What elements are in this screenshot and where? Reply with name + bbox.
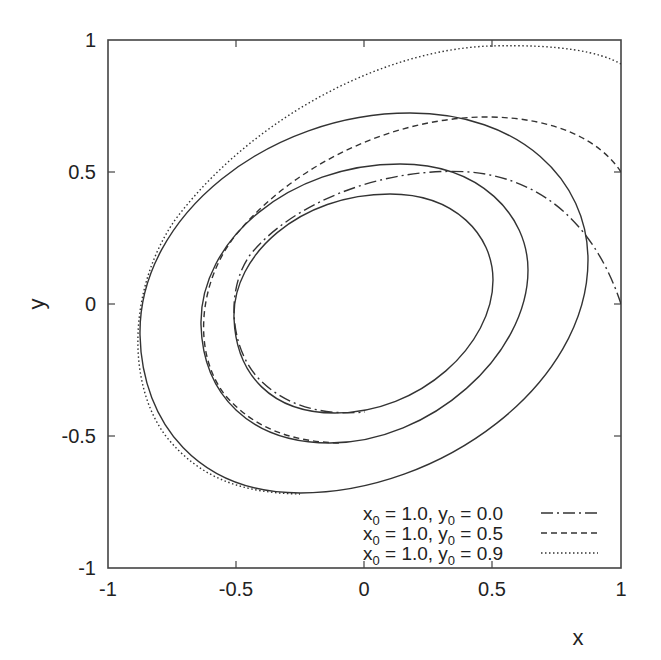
plot-frame (108, 40, 621, 568)
solid-orbit-inner (234, 194, 493, 413)
solid-orbit-middle (201, 164, 528, 443)
y-tick-label: 0.5 (68, 161, 96, 183)
legend-entry: x0 = 1.0, y0 = 0.9 (363, 543, 598, 568)
trajectory-y0-0.9 (138, 46, 621, 494)
y-tick-label: 1 (85, 29, 96, 51)
y-tick-label: -0.5 (62, 425, 96, 447)
trajectory-y0-0.0 (234, 171, 621, 412)
legend: x0 = 1.0, y0 = 0.0 x0 = 1.0, y0 = 0.5 x0… (363, 503, 598, 568)
svg-text:x0 = 1.0, y0 = 0.9: x0 = 1.0, y0 = 0.9 (363, 543, 503, 568)
y-axis-label: y (24, 299, 49, 310)
x-tick-label: 0 (358, 578, 369, 600)
x-tick-label: -0.5 (219, 578, 253, 600)
y-tick-label: 0 (85, 293, 96, 315)
solid-orbit-outer (140, 113, 588, 493)
phase-portrait-chart: -1 -0.5 0 0.5 1 -1 -0.5 0 0.5 1 x y x0 =… (0, 0, 661, 660)
y-tick-label: -1 (78, 557, 96, 579)
y-axis-ticks (108, 172, 621, 436)
x-axis-label: x (573, 625, 584, 650)
x-tick-label: 1 (615, 578, 626, 600)
x-tick-label: 0.5 (478, 578, 506, 600)
x-tick-label: -1 (99, 578, 117, 600)
